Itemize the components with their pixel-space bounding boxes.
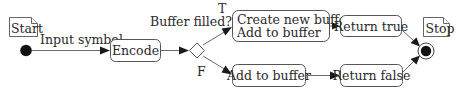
action-return-true: Return true xyxy=(334,16,408,37)
action-create-new-buffer-line2: Add to buffer xyxy=(236,25,321,40)
action-add-to-buffer: Add to buffer xyxy=(226,65,311,87)
activity-diagram: Start Input symbol Encode Buffer filled?… xyxy=(0,0,459,98)
branch-label-false: F xyxy=(197,64,206,79)
action-return-true-label: Return true xyxy=(334,19,408,34)
stop-note: Stop xyxy=(424,18,455,37)
decision-label-buffer-filled: Buffer filled? xyxy=(150,14,232,29)
arrowhead-icon xyxy=(100,47,110,55)
decision-node: Buffer filled? xyxy=(150,14,232,58)
arrowhead-icon xyxy=(179,47,189,55)
action-encode-label: Encode xyxy=(112,43,159,58)
edge-start-to-encode: Input symbol xyxy=(32,32,123,55)
branch-label-true: T xyxy=(218,1,227,16)
final-node xyxy=(418,43,434,59)
initial-node xyxy=(20,45,32,57)
action-return-false: Return false xyxy=(333,65,411,87)
action-return-false-label: Return false xyxy=(333,68,411,83)
action-add-to-buffer-label: Add to buffer xyxy=(226,68,311,83)
edge-encode-to-decision xyxy=(161,47,189,55)
start-note-label: Start xyxy=(11,21,43,36)
start-note: Start xyxy=(10,18,44,37)
edge-return-false-to-final xyxy=(403,56,420,73)
stop-note-label: Stop xyxy=(426,21,455,36)
edge-return-true-to-final xyxy=(402,30,420,47)
action-encode: Encode xyxy=(111,40,161,62)
